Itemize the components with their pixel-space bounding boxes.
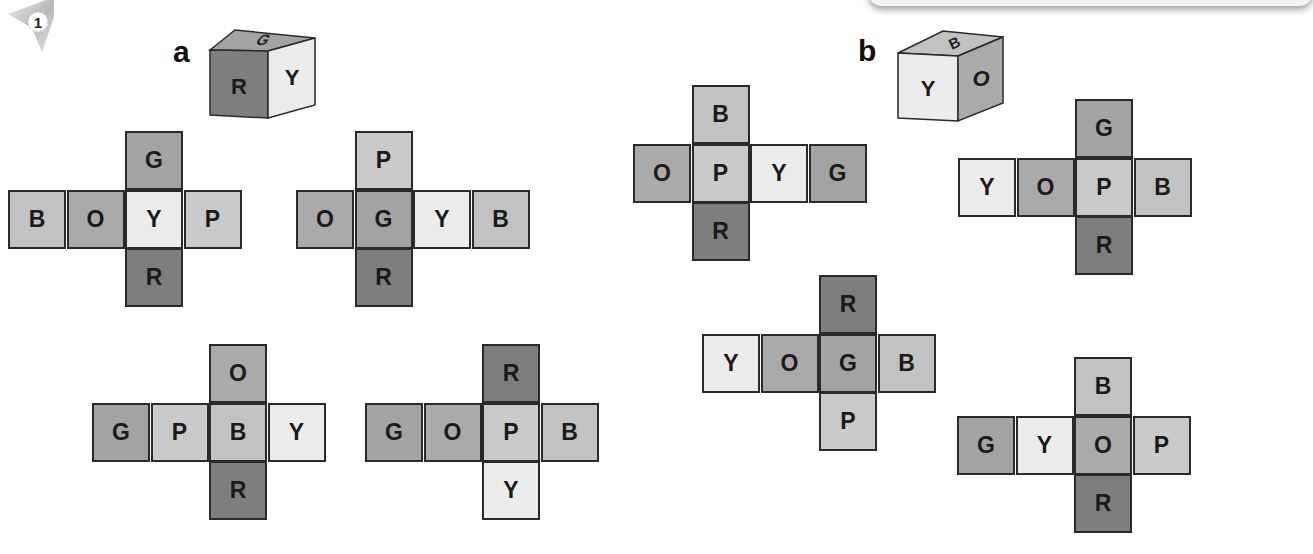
svg-text:O: O (972, 66, 989, 91)
net-face: O (633, 144, 691, 203)
net-face: B (209, 403, 267, 462)
net-face-top: B (692, 85, 750, 144)
net-face: P (151, 403, 209, 462)
net-face: O (1074, 416, 1132, 475)
net-face: B (878, 334, 936, 393)
net-face: P (1133, 416, 1191, 475)
net-face-top: O (209, 344, 267, 403)
svg-text:Y: Y (921, 76, 936, 101)
header-banner (868, 0, 1313, 6)
net-face: Y (413, 190, 471, 249)
net-face-bottom: R (1075, 216, 1133, 275)
net-face: G (957, 416, 1015, 475)
part-b-label: b (858, 36, 876, 66)
net-face: G (809, 144, 867, 203)
net-face-top: G (1075, 99, 1133, 158)
net-face: B (472, 190, 530, 249)
triangle-badge-icon: 1 (2, 0, 54, 52)
svg-text:Y: Y (285, 65, 300, 90)
net-face: P (184, 190, 242, 249)
net-face: G (92, 403, 150, 462)
net-face: O (296, 190, 354, 249)
net-face-top: R (819, 275, 877, 334)
net-face-top: G (125, 131, 183, 190)
svg-text:1: 1 (34, 14, 42, 31)
net-face-bottom: R (209, 461, 267, 520)
net-face: P (692, 144, 750, 203)
net-face: Y (958, 158, 1016, 217)
net-face: B (541, 403, 599, 462)
net-face: Y (268, 403, 326, 462)
net-face-top: P (355, 131, 413, 190)
exercise-number-badge: 1 (2, 0, 54, 52)
cube-a: G R Y (205, 25, 320, 129)
net-face-bottom: R (355, 248, 413, 307)
net-face: Y (125, 190, 183, 249)
net-face: Y (702, 334, 760, 393)
net-face: O (424, 403, 482, 462)
net-face-bottom: R (692, 202, 750, 261)
net-face: G (355, 190, 413, 249)
net-face: O (1017, 158, 1075, 217)
net-face-bottom: Y (482, 461, 540, 520)
net-face: P (482, 403, 540, 462)
net-face: G (365, 403, 423, 462)
svg-text:R: R (231, 74, 247, 99)
net-face: O (761, 334, 819, 393)
net-face-top: B (1074, 357, 1132, 416)
net-face-top: R (482, 344, 540, 403)
net-face: Y (750, 144, 808, 203)
net-face: B (8, 190, 66, 249)
net-face-bottom: P (819, 392, 877, 451)
net-face-bottom: R (125, 248, 183, 307)
net-face-bottom: R (1074, 474, 1132, 533)
net-face: B (1134, 158, 1192, 217)
net-face: G (819, 334, 877, 393)
net-face: Y (1016, 416, 1074, 475)
part-a-label: a (173, 37, 190, 67)
cube-b: B Y O (893, 28, 1008, 132)
net-face: O (67, 190, 125, 249)
net-face: P (1075, 158, 1133, 217)
